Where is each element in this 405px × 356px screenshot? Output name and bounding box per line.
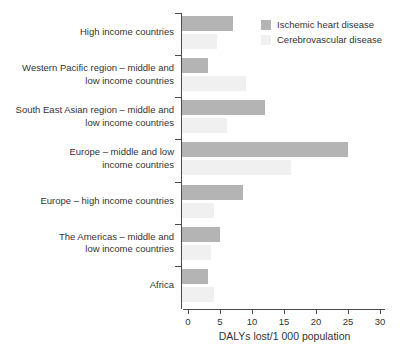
- category-label: Western Pacific region – middle andlow i…: [0, 56, 181, 93]
- bars-cell: [181, 225, 405, 267]
- bar-cerebrovascular-disease: [182, 76, 246, 91]
- bar-cerebrovascular-disease: [182, 34, 217, 49]
- legend-swatch-cerebrovascular-disease: [261, 35, 271, 45]
- x-axis-tick-label: 5: [217, 316, 222, 327]
- category-label-text: Africa: [150, 279, 174, 292]
- bars-cell: [181, 98, 405, 140]
- chart-row: Europe – high income countries: [0, 183, 405, 225]
- x-axis: 051015202530: [183, 309, 385, 310]
- bar-ischemic-heart-disease: [182, 142, 348, 157]
- category-label-text: High income countries: [80, 26, 174, 39]
- bar-ischemic-heart-disease: [182, 269, 208, 284]
- legend-item: Cerebrovascular disease: [261, 32, 382, 47]
- x-axis-tick: [380, 310, 381, 314]
- category-label-line: low income countries: [59, 243, 174, 256]
- category-label-line: income countries: [69, 159, 174, 172]
- bar-ischemic-heart-disease: [182, 58, 208, 73]
- bars-cell: [181, 183, 405, 225]
- x-axis-tick-label: 25: [343, 316, 354, 327]
- legend-label: Cerebrovascular disease: [277, 34, 382, 45]
- bar-cerebrovascular-disease: [182, 118, 227, 133]
- plot-area: High income countriesWestern Pacific reg…: [0, 14, 405, 309]
- chart-row: Europe – middle and lowincome countries: [0, 140, 405, 182]
- category-label-line: low income countries: [16, 117, 174, 130]
- legend-item: Ischemic heart disease: [261, 17, 382, 32]
- x-axis-tick: [220, 310, 221, 314]
- bars-cell: [181, 56, 405, 98]
- x-axis-title: DALYs lost/1 000 population: [188, 330, 381, 342]
- x-axis-tick: [252, 310, 253, 314]
- category-label: South East Asian region – middle andlow …: [0, 98, 181, 135]
- category-label-line: South East Asian region – middle and: [16, 104, 174, 117]
- x-axis-tick: [188, 310, 189, 314]
- x-axis-tick-label: 15: [279, 316, 290, 327]
- bar-chart-figure: High income countriesWestern Pacific reg…: [0, 0, 405, 356]
- chart-row: The Americas – middle andlow income coun…: [0, 225, 405, 267]
- bar-cerebrovascular-disease: [182, 203, 214, 218]
- x-axis-tick: [316, 310, 317, 314]
- x-axis-tick: [348, 310, 349, 314]
- bar-cerebrovascular-disease: [182, 245, 211, 260]
- category-label: Africa: [0, 267, 181, 304]
- chart-row: Africa: [0, 267, 405, 309]
- x-axis-tick: [284, 310, 285, 314]
- bar-cerebrovascular-disease: [182, 287, 214, 302]
- y-axis-tick: [175, 55, 182, 56]
- y-axis-tick: [175, 13, 182, 14]
- category-label: The Americas – middle andlow income coun…: [0, 225, 181, 262]
- category-label-text: The Americas – middle andlow income coun…: [59, 231, 174, 256]
- category-label-line: Africa: [150, 279, 174, 292]
- x-axis-tick-label: 10: [247, 316, 258, 327]
- y-axis-tick: [175, 182, 182, 183]
- bar-ischemic-heart-disease: [182, 16, 233, 31]
- category-label-line: High income countries: [80, 26, 174, 39]
- category-label-line: Europe – high income countries: [40, 195, 174, 208]
- y-axis-tick: [175, 97, 182, 98]
- category-label-text: Europe – middle and lowincome countries: [69, 146, 174, 171]
- x-axis-tick-label: 30: [375, 316, 386, 327]
- bars-cell: [181, 140, 405, 182]
- bar-ischemic-heart-disease: [182, 227, 220, 242]
- category-label-line: Western Pacific region – middle and: [22, 62, 174, 75]
- chart-row: Western Pacific region – middle andlow i…: [0, 56, 405, 98]
- bar-ischemic-heart-disease: [182, 185, 243, 200]
- legend-swatch-ischemic-heart-disease: [261, 20, 271, 30]
- category-label-line: low income countries: [22, 75, 174, 88]
- category-label: High income countries: [0, 14, 181, 51]
- y-axis-tick: [175, 224, 182, 225]
- bar-cerebrovascular-disease: [182, 160, 291, 175]
- category-label: Europe – middle and lowincome countries: [0, 140, 181, 177]
- bar-ischemic-heart-disease: [182, 100, 265, 115]
- legend-label: Ischemic heart disease: [277, 19, 374, 30]
- x-axis-tick-label: 0: [185, 316, 190, 327]
- bars-cell: [181, 267, 405, 309]
- y-axis-tick: [175, 139, 182, 140]
- category-label-text: Western Pacific region – middle andlow i…: [22, 62, 174, 87]
- category-label-line: Europe – middle and low: [69, 146, 174, 159]
- x-axis-tick-label: 20: [311, 316, 322, 327]
- category-label: Europe – high income countries: [0, 183, 181, 220]
- chart-row: South East Asian region – middle andlow …: [0, 98, 405, 140]
- category-label-text: Europe – high income countries: [40, 195, 174, 208]
- category-label-line: The Americas – middle and: [59, 231, 174, 244]
- category-label-text: South East Asian region – middle andlow …: [16, 104, 174, 129]
- y-axis-tick: [175, 266, 182, 267]
- legend: Ischemic heart diseaseCerebrovascular di…: [261, 17, 382, 47]
